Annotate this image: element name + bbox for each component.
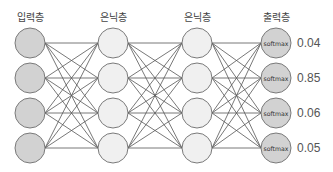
output-layer: softmax softmax softmax softmax [261, 28, 291, 163]
hidden-layer-2-label: 은닉층 [184, 12, 211, 23]
connections [45, 43, 261, 148]
input-layer [15, 28, 45, 163]
output-probabilities: 0.04 0.85 0.06 0.05 [297, 36, 321, 155]
hidden-node [98, 63, 128, 93]
hidden-node [98, 133, 128, 163]
hidden-node [182, 98, 212, 128]
input-node [15, 63, 45, 93]
hidden-layer-1 [98, 28, 128, 163]
input-node [15, 28, 45, 58]
output-probability: 0.85 [297, 71, 321, 85]
output-layer-label: 출력층 [263, 12, 290, 23]
softmax-label: softmax [264, 75, 289, 82]
softmax-label: softmax [264, 40, 289, 47]
input-layer-label: 입력층 [17, 11, 44, 23]
hidden-layer-2 [182, 28, 212, 163]
hidden-node [182, 133, 212, 163]
input-node [15, 133, 45, 163]
output-probability: 0.04 [297, 36, 321, 50]
neural-network-diagram: 입력층 은닉층 은닉층 출력층 softmax softmax softmax … [0, 0, 333, 172]
hidden-node [182, 63, 212, 93]
softmax-label: softmax [264, 110, 289, 117]
hidden-layer-1-label: 은닉층 [100, 12, 127, 23]
output-probability: 0.05 [297, 141, 321, 155]
softmax-label: softmax [264, 145, 289, 152]
output-probability: 0.06 [297, 106, 321, 120]
hidden-node [182, 28, 212, 58]
input-node [15, 98, 45, 128]
hidden-node [98, 98, 128, 128]
hidden-node [98, 28, 128, 58]
